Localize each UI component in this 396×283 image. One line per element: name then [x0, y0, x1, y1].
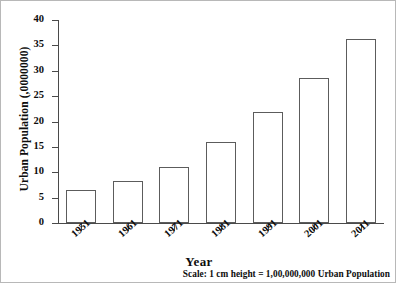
y-tick-label-40: 40	[34, 13, 45, 24]
y-tick-5: 5	[52, 198, 58, 199]
scale-annotation: Scale: 1 cm height = 1,00,000,000 Urban …	[1, 269, 390, 279]
x-axis-title: Year	[1, 254, 396, 270]
y-tick-label-25: 25	[34, 89, 45, 100]
y-tick-40: 40	[52, 20, 58, 21]
bar-1961	[113, 181, 143, 223]
y-tick-30: 30	[52, 71, 58, 72]
y-tick-15: 15	[52, 147, 58, 148]
y-tick-label-30: 30	[34, 64, 45, 75]
y-tick-25: 25	[52, 96, 58, 97]
y-tick-label-5: 5	[39, 191, 44, 202]
y-tick-label-0: 0	[39, 216, 44, 227]
y-tick-10: 10	[52, 172, 58, 173]
y-tick-20: 20	[52, 122, 58, 123]
y-tick-label-10: 10	[34, 165, 45, 176]
y-tick-35: 35	[52, 45, 58, 46]
bar-2001	[299, 78, 329, 223]
y-tick-0: 0	[52, 223, 58, 224]
bar-1971	[159, 167, 189, 223]
y-tick-label-20: 20	[34, 115, 45, 126]
bar-1981	[206, 142, 236, 223]
bar-1991	[253, 112, 283, 223]
plot-area: 0510152025303540 19511961197119811991200…	[58, 20, 384, 224]
y-axis-title: Urban Population (,0000000)	[14, 19, 34, 219]
y-tick-label-35: 35	[34, 38, 45, 49]
bar-chart-figure: Urban Population (,0000000) 051015202530…	[0, 0, 396, 283]
bar-2011	[346, 39, 376, 223]
y-tick-label-15: 15	[34, 140, 45, 151]
y-axis-title-text: Urban Population (,0000000)	[18, 47, 30, 192]
y-axis-line	[58, 20, 59, 224]
